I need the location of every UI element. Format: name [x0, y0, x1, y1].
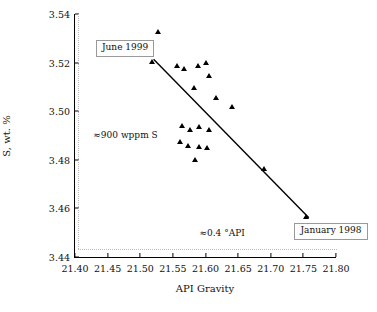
y-tick-3.48: 3.48 [49, 154, 75, 165]
y-tick-3.52: 3.52 [49, 57, 75, 68]
chart-annotation: January 1998 [294, 223, 367, 240]
data-point [195, 63, 201, 68]
y-tick-3.54: 3.54 [49, 9, 75, 20]
x-tick-21.75: 21.75 [290, 257, 317, 274]
data-point [179, 123, 185, 128]
y-tick-3.50: 3.50 [49, 106, 75, 117]
x-tick-21.50: 21.50 [127, 257, 154, 274]
x-axis-title: API Gravity [74, 283, 336, 294]
chart-annotation: ≈900 wppm S [93, 130, 157, 140]
x-tick-21.80: 21.80 [322, 257, 349, 274]
data-point [261, 166, 267, 171]
data-point [196, 124, 202, 129]
chart-annotation: ≈0.4 °API [199, 228, 244, 238]
x-tick-21.45: 21.45 [94, 257, 121, 274]
chart-annotation: June 1999 [96, 40, 154, 57]
x-tick-21.60: 21.60 [192, 257, 219, 274]
x-tick-21.55: 21.55 [159, 257, 186, 274]
data-point [149, 59, 155, 64]
data-point [155, 29, 161, 34]
data-point [181, 66, 187, 71]
y-tick-3.46: 3.46 [49, 203, 75, 214]
data-point [191, 85, 197, 90]
data-point [206, 73, 212, 78]
data-point [192, 157, 198, 162]
data-point [187, 127, 193, 132]
data-point [229, 104, 235, 109]
plot-area: 3.44 3.46 3.48 3.50 3.52 3.54 21.40 21.4… [74, 14, 336, 258]
data-point [213, 95, 219, 100]
x-tick-21.65: 21.65 [225, 257, 252, 274]
data-point [177, 139, 183, 144]
data-point [206, 127, 212, 132]
x-tick-21.40: 21.40 [61, 257, 88, 274]
data-point [203, 60, 209, 65]
scatter-chart: S, wt. % API Gravity 3.44 3.46 3.48 3.50… [0, 0, 377, 312]
data-point [196, 144, 202, 149]
data-point [185, 143, 191, 148]
y-axis-title: S, wt. % [1, 115, 12, 156]
data-point [303, 214, 309, 219]
x-tick-21.70: 21.70 [257, 257, 284, 274]
data-point [174, 63, 180, 68]
data-point [204, 145, 210, 150]
